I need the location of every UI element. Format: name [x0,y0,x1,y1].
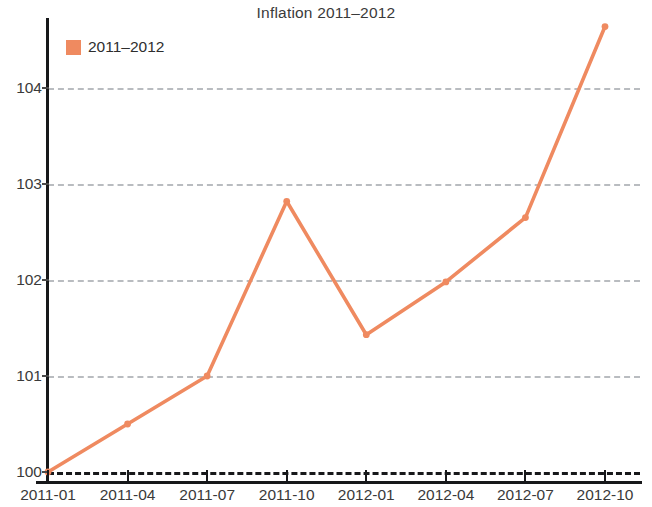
x-tick-mark-2012-01 [365,470,367,482]
inflation-line-chart: Inflation 2011–2012 100101102103104 2011… [0,0,652,507]
x-tick-label-2011-01: 2011-01 [20,486,76,504]
x-tick-mark-2012-07 [524,470,526,482]
x-tick-mark-2011-01 [47,470,49,482]
x-tick-label-2012-10: 2012-10 [577,486,634,504]
x-tick-label-2011-07: 2011-07 [179,486,235,504]
y-tick-mark-103 [42,183,49,185]
chart-legend: 2011–2012 [66,38,164,56]
x-tick-label-2011-10: 2011-10 [259,486,315,504]
y-tick-mark-104 [42,87,49,89]
data-point-2011-10 [283,198,290,205]
x-tick-mark-2011-04 [127,470,129,482]
x-tick-mark-2011-07 [206,470,208,482]
data-point-2012-10 [602,23,609,30]
x-tick-label-2012-01: 2012-01 [338,486,395,504]
x-tick-mark-2012-10 [604,470,606,482]
y-tick-mark-101 [42,375,49,377]
y-tick-mark-102 [42,279,49,281]
x-tick-mark-2012-04 [445,470,447,482]
x-tick-label-2012-04: 2012-04 [417,486,474,504]
x-tick-label-2011-04: 2011-04 [100,486,156,504]
x-tick-label-2012-07: 2012-07 [497,486,554,504]
data-point-2012-04 [442,279,449,286]
data-point-2011-07 [204,373,211,380]
legend-swatch-icon [66,40,81,55]
x-tick-mark-2011-10 [286,470,288,482]
legend-label: 2011–2012 [88,38,164,56]
data-point-2012-01 [363,331,370,338]
data-point-2011-04 [124,421,131,428]
data-point-2012-07 [522,214,529,221]
data-series-layer [0,0,652,507]
series-line-0 [48,27,605,472]
